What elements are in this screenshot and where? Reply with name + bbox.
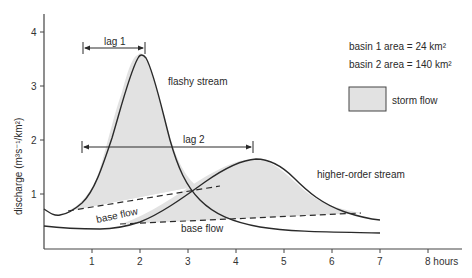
legend-storm-flow-label: storm flow: [392, 95, 438, 106]
x-ticks: [92, 249, 428, 253]
lag2-arrowhead-left: [83, 145, 89, 150]
lag2-arrowhead-right: [246, 145, 252, 150]
higher-order-stream-label: higher-order stream: [317, 169, 405, 180]
y-axis-label: discharge (m³s⁻¹/km²): [13, 118, 24, 215]
lag1-arrowhead-left: [84, 46, 90, 51]
x-tick-7: 7: [377, 256, 383, 267]
x-tick-6: 6: [329, 256, 335, 267]
x-tick-3: 3: [185, 256, 191, 267]
y-tick-2: 2: [31, 135, 37, 146]
hydrograph-chart: 1 2 3 4 1 2 3 4 5 6 7 8 hours discharge …: [0, 0, 472, 278]
x-tick-5: 5: [281, 256, 287, 267]
flashy-stream-label: flashy stream: [168, 76, 227, 87]
lag1-label: lag 1: [104, 36, 126, 47]
y-tick-3: 3: [31, 81, 37, 92]
y-tick-4: 4: [31, 27, 37, 38]
x-tick-8-hours: 8 hours: [425, 256, 458, 267]
basin1-area-note: basin 1 area = 24 km²: [349, 41, 447, 52]
legend-storm-flow-swatch: [349, 87, 386, 111]
lag2-label: lag 2: [183, 134, 205, 145]
x-tick-1: 1: [89, 256, 95, 267]
y-tick-1: 1: [31, 189, 37, 200]
x-tick-4: 4: [233, 256, 239, 267]
base-flow-label-2: base flow: [181, 223, 224, 234]
basin2-area-note: basin 2 area = 140 km²: [349, 59, 452, 70]
x-tick-2: 2: [137, 256, 143, 267]
lag1-arrowhead-right: [138, 46, 144, 51]
